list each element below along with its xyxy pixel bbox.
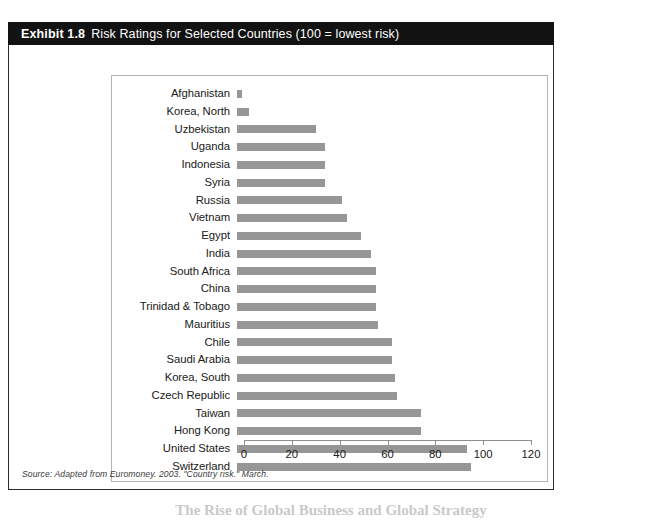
category-label: Mauritius xyxy=(112,319,237,330)
category-label: Indonesia xyxy=(112,159,237,170)
bar-row: Vietnam xyxy=(112,209,549,227)
x-axis-tick-label: 80 xyxy=(429,448,442,460)
exhibit-title-bar: Exhibit 1.8 Risk Ratings for Selected Co… xyxy=(8,22,554,45)
category-label: Czech Republic xyxy=(112,390,237,401)
bar-row: Syria xyxy=(112,174,549,192)
bar xyxy=(237,232,361,240)
bar-track xyxy=(237,387,549,405)
bar-track xyxy=(237,334,549,352)
x-axis-tick xyxy=(340,440,341,445)
exhibit-title: Risk Ratings for Selected Countries (100… xyxy=(91,27,399,41)
bar xyxy=(237,108,249,116)
bar-row: South Africa xyxy=(112,263,549,281)
bar-row: Afghanistan xyxy=(112,85,549,103)
bar-track xyxy=(237,227,549,245)
category-label: Russia xyxy=(112,195,237,206)
category-label: Egypt xyxy=(112,230,237,241)
bar xyxy=(237,250,371,258)
x-axis-tick xyxy=(435,440,436,445)
x-axis-tick-label: 120 xyxy=(522,448,541,460)
bar-row: Uganda xyxy=(112,138,549,156)
bar xyxy=(237,392,397,400)
bar-track xyxy=(237,263,549,281)
bar-track xyxy=(237,369,549,387)
x-axis-tick xyxy=(531,440,532,445)
category-label: Saudi Arabia xyxy=(112,354,237,365)
bar-row: Taiwan xyxy=(112,405,549,423)
bar xyxy=(237,374,395,382)
page-caption: The Rise of Global Business and Global S… xyxy=(0,502,662,520)
bar-track xyxy=(237,85,549,103)
chart-plot-frame: AfghanistanKorea, NorthUzbekistanUgandaI… xyxy=(111,75,548,482)
category-label: Uzbekistan xyxy=(112,124,237,135)
bar-row: Korea, North xyxy=(112,103,549,121)
x-axis-tick-label: 0 xyxy=(241,448,247,460)
category-label: Chile xyxy=(112,337,237,348)
bar-row: Hong Kong xyxy=(112,422,549,440)
bar xyxy=(237,285,376,293)
bar-track xyxy=(237,422,549,440)
category-label: Korea, South xyxy=(112,372,237,383)
x-axis-tick-label: 40 xyxy=(333,448,346,460)
bar-track xyxy=(237,316,549,334)
bar-rows: AfghanistanKorea, NorthUzbekistanUgandaI… xyxy=(112,85,549,440)
x-axis-tick-label: 100 xyxy=(474,448,493,460)
x-axis-tick xyxy=(292,440,293,445)
bar-row: China xyxy=(112,280,549,298)
bar-track xyxy=(237,192,549,210)
x-axis-tick xyxy=(244,440,245,445)
bar xyxy=(237,356,392,364)
bar-track xyxy=(237,245,549,263)
x-axis: 020406080100120 xyxy=(244,440,531,480)
category-label: United States xyxy=(112,443,237,454)
bar-track xyxy=(237,209,549,227)
category-label: Korea, North xyxy=(112,106,237,117)
category-label: Uganda xyxy=(112,141,237,152)
bar-track xyxy=(237,280,549,298)
x-axis-tick-label: 60 xyxy=(381,448,394,460)
bar-row: Trinidad & Tobago xyxy=(112,298,549,316)
bar-row: Indonesia xyxy=(112,156,549,174)
bar xyxy=(237,161,325,169)
source-note: Source: Adapted from Euromoney. 2003. "C… xyxy=(22,469,269,479)
bar-row: Saudi Arabia xyxy=(112,351,549,369)
bar-row: Uzbekistan xyxy=(112,121,549,139)
x-axis-tick xyxy=(388,440,389,445)
category-label: South Africa xyxy=(112,266,237,277)
bar-track xyxy=(237,103,549,121)
bar xyxy=(237,214,347,222)
bar-row: Egypt xyxy=(112,227,549,245)
category-label: Hong Kong xyxy=(112,425,237,436)
category-label: India xyxy=(112,248,237,259)
bar-row: Russia xyxy=(112,192,549,210)
bar-track xyxy=(237,405,549,423)
x-axis-tick-label: 20 xyxy=(286,448,299,460)
exhibit-body-panel: AfghanistanKorea, NorthUzbekistanUgandaI… xyxy=(8,45,554,490)
exhibit-number-label: Exhibit 1.8 xyxy=(21,27,85,41)
bar xyxy=(237,427,421,435)
category-label: Taiwan xyxy=(112,408,237,419)
bar-row: Czech Republic xyxy=(112,387,549,405)
category-label: Trinidad & Tobago xyxy=(112,301,237,312)
category-label: China xyxy=(112,283,237,294)
exhibit-container: Exhibit 1.8 Risk Ratings for Selected Co… xyxy=(8,22,554,490)
x-axis-tick xyxy=(483,440,484,445)
bar-row: Mauritius xyxy=(112,316,549,334)
bar-track xyxy=(237,298,549,316)
bar xyxy=(237,303,376,311)
bar xyxy=(237,338,392,346)
bar xyxy=(237,196,342,204)
bar-track xyxy=(237,174,549,192)
bar xyxy=(237,125,316,133)
category-label: Vietnam xyxy=(112,212,237,223)
bar xyxy=(237,409,421,417)
bar-track xyxy=(237,156,549,174)
category-label: Syria xyxy=(112,177,237,188)
bar-row: Chile xyxy=(112,334,549,352)
bar-row: India xyxy=(112,245,549,263)
bar xyxy=(237,267,376,275)
category-label: Afghanistan xyxy=(112,88,237,99)
bar xyxy=(237,321,378,329)
bar-track xyxy=(237,351,549,369)
bar-row: Korea, South xyxy=(112,369,549,387)
